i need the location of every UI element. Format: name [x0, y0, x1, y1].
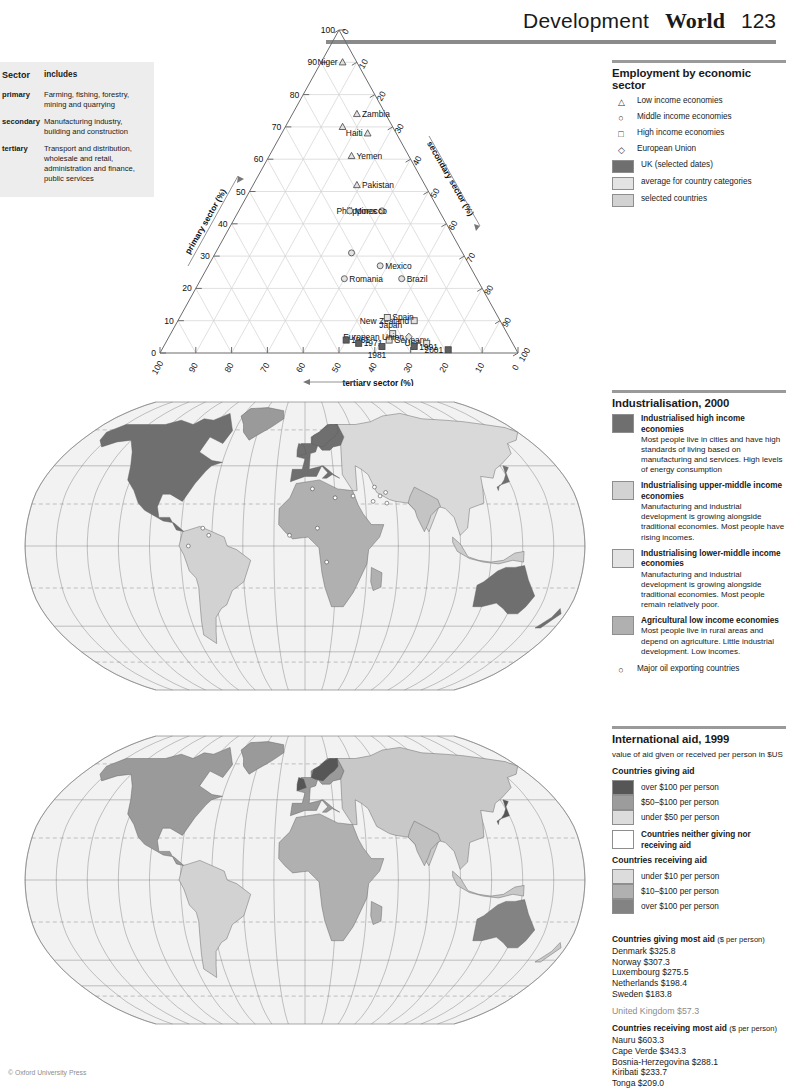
employment-legend-title: Employment by economic sector [612, 67, 786, 91]
data-point-haiti [364, 130, 371, 136]
aid-swatch [612, 810, 634, 825]
aid-receiving-row: over $100 per person [612, 899, 786, 914]
tick-label-secondary: 10 [357, 57, 371, 70]
uk-point-1971 [356, 340, 362, 346]
data-point-yemen [348, 152, 355, 158]
tick-label-primary: 90 [308, 57, 318, 67]
industrialisation-legend-panel: Industrialisation, 2000 Industrialised h… [612, 390, 786, 680]
aid-receiving-row: under $10 per person [612, 869, 786, 884]
industrialisation-text: Industrialising upper-middle income econ… [641, 481, 786, 542]
data-label-mexico: Mexico [385, 261, 412, 271]
aid-label: $50–$100 per person [641, 795, 719, 809]
oil-exporter-marker [325, 560, 329, 564]
aid-giving-row: $50–$100 per person [612, 795, 786, 810]
industrialisation-swatch [612, 616, 634, 635]
sector-desc: Transport and distribution, wholesale an… [44, 142, 148, 189]
aid-receiving-list: under $10 per person$10–$100 per persono… [612, 869, 786, 914]
oil-exporter-marker [311, 487, 315, 491]
aid-giving-row: over $100 per person [612, 780, 786, 795]
aid-receiving-heading: Countries receiving aid [612, 855, 786, 865]
oil-exporter-marker [201, 526, 205, 530]
industrialisation-item: Industrialised high income economiesMost… [612, 414, 786, 475]
list-item: Cape Verde $343.3 [612, 1046, 786, 1057]
table-row: tertiary Transport and distribution, who… [2, 142, 148, 189]
oil-circle-icon: ○ [612, 664, 630, 676]
panel-rule [612, 726, 786, 729]
list-item: Sweden $183.8 [612, 989, 786, 1000]
tick-label-primary: 10 [164, 316, 174, 326]
diamond-icon: ◇ [612, 144, 630, 156]
employment-swatch-label: average for country categories [641, 177, 752, 188]
giving-most-heading: Countries giving most aid ($ per person) [612, 934, 786, 944]
tick-label-tertiary: 50 [330, 361, 344, 374]
industrialisation-swatch [612, 481, 634, 500]
tick-label-tertiary: 70 [258, 361, 272, 374]
employment-swatch [612, 160, 634, 173]
ternary-chart: 0102030405060708090100010203040506070809… [140, 8, 560, 386]
aid-legend-panel: International aid, 1999 value of aid giv… [612, 726, 786, 914]
tick-label-secondary: 80 [482, 283, 496, 296]
oil-exporter-marker [384, 491, 388, 495]
oil-exporter-marker [207, 533, 211, 537]
list-item: Tonga $209.0 [612, 1078, 786, 1089]
page-header: Development World 123 [523, 8, 776, 34]
international-aid-map[interactable] [2, 720, 608, 1050]
tick-label-primary: 80 [290, 90, 300, 100]
aid-swatch [612, 869, 634, 884]
industrialisation-title: Industrialisation, 2000 [612, 397, 786, 409]
tick-label-secondary: 90 [500, 315, 514, 328]
triangle-icon: △ [612, 96, 630, 108]
tick-label-secondary: 60 [446, 218, 460, 231]
list-item: Netherlands $198.4 [612, 978, 786, 989]
grid-line-tertiary [250, 192, 340, 354]
tick-label-tertiary: 90 [186, 361, 200, 374]
aid-receiving-row: $10–$100 per person [612, 884, 786, 899]
aid-title: International aid, 1999 [612, 733, 786, 745]
tick-label-tertiary: 40 [365, 361, 379, 374]
industrialisation-text: Industrialising lower-middle income econ… [641, 549, 786, 610]
circle-icon: ○ [612, 112, 630, 124]
aid-swatch [612, 795, 634, 810]
sector-desc: Manufacturing industry, building and con… [44, 115, 148, 142]
tick-label-tertiary: 30 [401, 361, 415, 374]
aid-label: over $100 per person [641, 899, 719, 913]
axis-arrowhead-tertiary [303, 379, 310, 385]
tick-label-primary: 50 [236, 187, 246, 197]
sector-name: tertiary [2, 142, 44, 189]
list-item: Luxembourg $275.5 [612, 967, 786, 978]
oil-exporter-marker [333, 496, 337, 500]
oil-legend-row: ○ Major oil exporting countries [612, 664, 786, 676]
data-label-zambia: Zambia [362, 109, 390, 119]
data-point-pakistan [354, 181, 361, 187]
industrialisation-item-list: Industrialised high income economiesMost… [612, 414, 786, 657]
grid-line-tertiary [178, 321, 196, 353]
oil-exporter-marker [373, 485, 377, 489]
receiving-most-heading: Countries receiving most aid ($ per pers… [612, 1023, 786, 1033]
oil-legend-label: Major oil exporting countries [637, 664, 739, 675]
square-icon: □ [612, 128, 630, 140]
sector-col-header: Sector [2, 68, 44, 88]
tick-label-secondary: 30 [392, 122, 406, 135]
list-item: Bosnia-Herzegovina $288.1 [612, 1057, 786, 1068]
employment-swatch-list: UK (selected dates)average for country c… [612, 160, 786, 207]
list-item: Norway $307.3 [612, 957, 786, 968]
uk-aid-value: United Kingdom $57.3 [612, 1006, 786, 1016]
employment-swatch-label: selected countries [641, 194, 707, 205]
oil-exporter-marker [378, 494, 382, 498]
aid-giving-row: under $50 per person [612, 810, 786, 825]
axis-arrow-primary [188, 176, 238, 266]
employment-swatch [612, 177, 634, 190]
panel-rule [612, 60, 786, 63]
industrialisation-swatch [612, 414, 634, 433]
uk-point-1961 [343, 337, 349, 343]
aid-swatch [612, 884, 634, 899]
table-row: primary Farming, fishing, forestry, mini… [2, 88, 148, 115]
industrialisation-map[interactable] [2, 386, 608, 716]
data-label-japan: Japan [379, 320, 402, 330]
list-item: Denmark $325.8 [612, 946, 786, 957]
aid-label: over $100 per person [641, 780, 719, 794]
tick-label-tertiary: 20 [437, 361, 451, 374]
aid-subtitle: value of aid given or received per perso… [612, 750, 786, 760]
tick-label-primary: 40 [218, 219, 228, 229]
data-label-haiti: Haiti [346, 128, 363, 138]
